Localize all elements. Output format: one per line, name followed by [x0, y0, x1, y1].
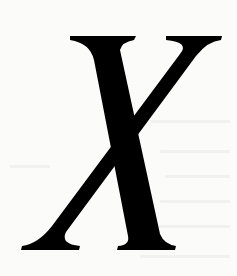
letter-x-glyph: X: [0, 0, 237, 276]
scanned-page: X: [0, 0, 237, 276]
